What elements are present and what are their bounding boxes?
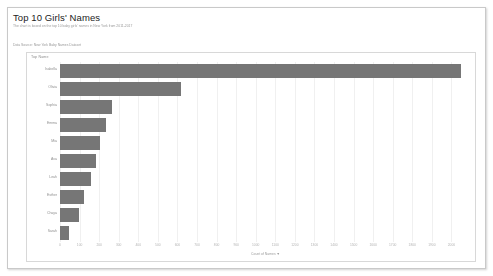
x-axis-title: Count of Names ▼	[251, 252, 280, 256]
x-axis-tick-label: 700	[194, 243, 200, 247]
x-axis-tick-label: 1400	[330, 243, 337, 247]
x-axis-tick-label: 200	[96, 243, 102, 247]
x-axis-tick-label: 1800	[409, 243, 416, 247]
bar[interactable]	[60, 154, 96, 168]
dashboard-subtitle: The chart is based on the top 10 baby gi…	[13, 24, 479, 29]
x-axis-tick-label: 1600	[369, 243, 376, 247]
bar[interactable]	[60, 118, 106, 132]
x-axis-tick-label: 1900	[428, 243, 435, 247]
x-axis-tick-label: 400	[136, 243, 142, 247]
bar-category-label: Leah	[49, 175, 57, 179]
x-axis-tick-label: 1500	[350, 243, 357, 247]
bar-category-label: Olivia	[48, 85, 57, 89]
x-axis-tick-label: 300	[116, 243, 122, 247]
x-axis: Count of Names ▼ 01002003004005006007008…	[60, 243, 471, 263]
bar[interactable]	[60, 208, 79, 222]
bar[interactable]	[60, 226, 69, 240]
bar-category-label: Sophia	[46, 103, 57, 107]
bar-row[interactable]: Sophia	[60, 98, 471, 116]
x-axis-tick-label: 0	[59, 243, 61, 247]
bar-category-label: Chaya	[47, 211, 57, 215]
bar[interactable]	[60, 100, 112, 114]
bar-row[interactable]: Chaya	[60, 206, 471, 224]
bar-row[interactable]: Leah	[60, 170, 471, 188]
bar-row[interactable]: Esther	[60, 188, 471, 206]
bar-row[interactable]: Emma	[60, 116, 471, 134]
bar[interactable]	[60, 82, 181, 96]
bar[interactable]	[60, 190, 84, 204]
x-axis-tick-label: 600	[175, 243, 181, 247]
x-axis-tick-label: 800	[214, 243, 220, 247]
x-axis-tick-label: 1100	[272, 243, 279, 247]
bar[interactable]	[60, 64, 461, 78]
x-axis-tick-label: 1700	[389, 243, 396, 247]
x-axis-tick-label: 100	[77, 243, 83, 247]
bar[interactable]	[60, 136, 100, 150]
bar-row[interactable]: Mia	[60, 134, 471, 152]
x-axis-tick-label: 500	[155, 243, 161, 247]
data-source-caption: Data Source: New York Baby Names Dataset	[13, 43, 81, 48]
bar-category-label: Esther	[47, 193, 57, 197]
bar-chart-plot-area: IsabellaOliviaSophiaEmmaMiaAvaLeahEsther…	[60, 62, 471, 242]
x-axis-tick-label: 900	[233, 243, 239, 247]
x-axis-tick-label: 1200	[291, 243, 298, 247]
dashboard-header: Top 10 Girls' Names The chart is based o…	[13, 12, 479, 29]
bar-category-label: Isabella	[45, 67, 57, 71]
x-axis-tick-label: 1300	[311, 243, 318, 247]
bar-row[interactable]: Isabella	[60, 62, 471, 80]
bar-category-label: Sarah	[48, 229, 57, 233]
bar-category-label: Emma	[47, 121, 57, 125]
chart-panel: Top Name IsabellaOliviaSophiaEmmaMiaAvaL…	[26, 52, 476, 262]
bar-row[interactable]: Olivia	[60, 80, 471, 98]
bar-category-label: Ava	[51, 157, 57, 161]
chart-panel-header: Top Name	[31, 55, 49, 59]
bar-category-label: Mia	[51, 139, 57, 143]
x-axis-tick-label: 1000	[252, 243, 259, 247]
dashboard-container: Top 10 Girls' Names The chart is based o…	[7, 7, 486, 269]
bar[interactable]	[60, 172, 91, 186]
x-axis-tick-label: 2000	[448, 243, 455, 247]
bar-row[interactable]: Sarah	[60, 224, 471, 242]
page-title: Top 10 Girls' Names	[13, 12, 479, 23]
bar-row[interactable]: Ava	[60, 152, 471, 170]
